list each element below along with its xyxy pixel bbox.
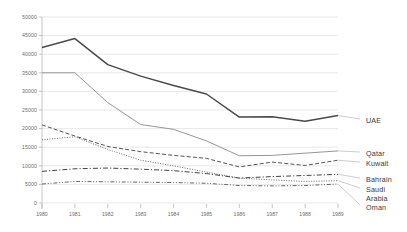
series-label-saudi: Saudi	[366, 185, 385, 194]
y-axis-tick-label: 25000	[2, 107, 37, 113]
y-axis-tick-label: 15000	[2, 144, 37, 150]
x-axis-tick-label: 1988	[290, 211, 320, 217]
x-axis-tick-label: 1987	[257, 211, 287, 217]
x-axis-tick-label: 1986	[224, 211, 254, 217]
series-label-oman: Oman	[366, 203, 386, 212]
y-axis-tick-label: 5000	[2, 181, 37, 187]
series-line-uae	[42, 39, 338, 122]
y-axis-tick-label: 0	[2, 200, 37, 206]
x-axis-tick-label: 1983	[126, 211, 156, 217]
y-axis-tick-label: 40000	[2, 51, 37, 57]
x-axis-tick-label: 1985	[191, 211, 221, 217]
series-label-kuwait: Kuwait	[366, 159, 388, 168]
y-axis-tick-label: 35000	[2, 70, 37, 76]
line-chart: 0500010000150002000025000300003500040000…	[0, 0, 407, 232]
x-axis-tick-label: 1989	[323, 211, 353, 217]
series-line-kuwait	[42, 125, 338, 167]
label-leader-line	[338, 174, 360, 178]
x-axis-tick-label: 1981	[60, 211, 90, 217]
x-axis-tick-label: 1980	[27, 211, 57, 217]
x-axis-tick-label: 1982	[93, 211, 123, 217]
series-label-arabia: Arabia	[366, 194, 388, 203]
label-leader-line	[338, 184, 360, 205]
series-label-uae: UAE	[366, 116, 381, 125]
y-axis-tick-label: 10000	[2, 163, 37, 169]
series-label-bahrain: Bahrain	[366, 175, 392, 184]
x-axis-tick-label: 1984	[159, 211, 189, 217]
chart-plot-area	[0, 0, 407, 232]
y-axis-tick-label: 45000	[2, 32, 37, 38]
label-leader-line	[338, 160, 360, 162]
series-line-bahrain	[42, 137, 338, 182]
label-leader-line	[338, 116, 360, 119]
series-line-oman	[42, 181, 338, 185]
series-line-qatar	[42, 73, 338, 156]
series-label-qatar: Qatar	[366, 149, 385, 158]
y-axis-tick-label: 20000	[2, 125, 37, 131]
y-axis-tick-label: 50000	[2, 14, 37, 20]
label-leader-line	[338, 151, 360, 152]
series-line-saudi-arabia	[42, 168, 338, 178]
y-axis-tick-label: 30000	[2, 88, 37, 94]
